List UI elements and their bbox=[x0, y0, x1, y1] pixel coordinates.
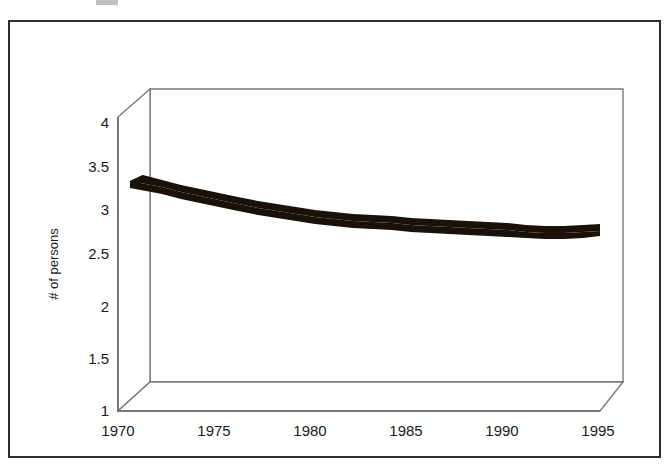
chart-plot: 4 3.5 3 2.5 2 1.5 1 1970 1975 1980 1985 … bbox=[0, 0, 671, 470]
floor-plane bbox=[118, 382, 623, 411]
y-axis-tick-labels: 4 3.5 3 2.5 2 1.5 1 bbox=[88, 114, 109, 419]
plot-3d-box bbox=[118, 89, 623, 411]
y-tick-label-4: 4 bbox=[101, 114, 109, 131]
chart-page: 4 3.5 3 2.5 2 1.5 1 1970 1975 1980 1985 … bbox=[0, 0, 671, 470]
y-tick-label-1-5: 1.5 bbox=[88, 350, 109, 367]
x-tick-label-1985: 1985 bbox=[389, 422, 422, 439]
y-axis-title: # of persons bbox=[46, 228, 61, 300]
x-tick-label-1970: 1970 bbox=[101, 422, 134, 439]
y-tick-label-2: 2 bbox=[101, 298, 109, 315]
y-tick-label-3-5: 3.5 bbox=[88, 158, 109, 175]
y-tick-label-2-5: 2.5 bbox=[88, 245, 109, 262]
y-tick-label-1: 1 bbox=[101, 402, 109, 419]
x-tick-label-1975: 1975 bbox=[197, 422, 230, 439]
x-tick-label-1990: 1990 bbox=[485, 422, 518, 439]
y-tick-label-3: 3 bbox=[101, 201, 109, 218]
x-tick-label-1980: 1980 bbox=[293, 422, 326, 439]
x-axis-tick-labels: 1970 1975 1980 1985 1990 1995 bbox=[101, 422, 614, 439]
chart-area: 4 3.5 3 2.5 2 1.5 1 1970 1975 1980 1985 … bbox=[0, 0, 671, 470]
left-side-wall bbox=[118, 89, 150, 411]
x-tick-label-1995: 1995 bbox=[581, 422, 614, 439]
